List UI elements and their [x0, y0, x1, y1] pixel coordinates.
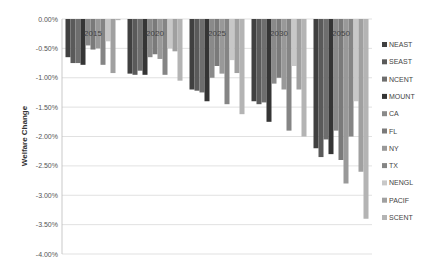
- bar-ncent-2020: [138, 19, 143, 71]
- category-label: 2030: [270, 29, 288, 38]
- bar-seast-2030: [257, 19, 262, 104]
- legend-swatch: [382, 198, 387, 203]
- bar-ny-2025: [220, 19, 225, 74]
- welfare-change-bar-chart: 0.00%-0.50%-1.00%-1.50%-2.00%-2.50%-3.00…: [0, 0, 443, 269]
- bar-series: [66, 19, 369, 219]
- bar-fl-2025: [215, 19, 220, 66]
- bar-seast-2020: [133, 19, 138, 75]
- legend-label-fl: FL: [389, 128, 397, 135]
- bar-neast-2025: [190, 19, 195, 90]
- legend-swatch: [382, 180, 387, 185]
- legend-label-neast: NEAST: [389, 41, 413, 48]
- bar-scent-2020: [178, 19, 183, 81]
- bar-pacif-2015: [111, 19, 116, 73]
- bar-tx-2015: [101, 19, 106, 65]
- legend-label-pacif: PACIF: [389, 197, 409, 204]
- bar-ca-2025: [210, 19, 215, 78]
- bar-ny-2050: [344, 19, 349, 184]
- bar-mount-2020: [143, 19, 148, 75]
- bar-nengl-2025: [230, 19, 235, 60]
- bar-ncent-2025: [200, 19, 205, 92]
- bar-neast-2030: [252, 19, 257, 101]
- bar-scent-2015: [116, 19, 121, 20]
- bar-tx-2020: [163, 19, 168, 75]
- legend-swatch: [382, 215, 387, 220]
- bar-seast-2025: [195, 19, 200, 91]
- category-label: 2025: [208, 29, 226, 38]
- y-tick-label: -1.00%: [36, 74, 58, 81]
- legend: NEASTSEASTNCENTMOUNTCAFLNYTXNENGLPACIFSC…: [382, 41, 415, 221]
- bar-ncent-2030: [262, 19, 267, 102]
- bar-nengl-2015: [106, 19, 111, 41]
- legend-swatch: [382, 146, 387, 151]
- bar-nengl-2030: [292, 19, 297, 66]
- bar-scent-2050: [364, 19, 369, 219]
- y-tick-label: -3.50%: [36, 221, 58, 228]
- bar-scent-2025: [240, 19, 245, 114]
- bar-neast-2050: [314, 19, 319, 148]
- bar-nengl-2020: [168, 19, 173, 48]
- legend-label-ca: CA: [389, 110, 399, 117]
- bar-seast-2050: [319, 19, 324, 157]
- y-axis-ticks: 0.00%-0.50%-1.00%-1.50%-2.00%-2.50%-3.00…: [36, 16, 58, 258]
- bar-nengl-2050: [354, 19, 359, 101]
- bar-fl-2050: [339, 19, 344, 160]
- legend-swatch: [382, 129, 387, 134]
- category-label: 2015: [84, 29, 102, 38]
- bar-seast-2015: [71, 19, 76, 63]
- legend-swatch: [382, 77, 387, 82]
- bar-neast-2015: [66, 19, 71, 57]
- category-labels: 20152020202520302050: [84, 29, 350, 38]
- y-tick-label: 0.00%: [38, 16, 58, 23]
- bar-pacif-2020: [173, 19, 178, 51]
- y-axis-title: Welfare Change: [20, 105, 29, 166]
- bar-fl-2030: [277, 19, 282, 78]
- legend-label-scent: SCENT: [389, 214, 413, 221]
- bar-mount-2015: [81, 19, 86, 65]
- legend-label-tx: TX: [389, 162, 398, 169]
- bar-pacif-2030: [297, 19, 302, 90]
- legend-label-ny: NY: [389, 145, 399, 152]
- y-tick-label: -3.00%: [36, 192, 58, 199]
- y-tick-label: -2.00%: [36, 133, 58, 140]
- legend-label-mount: MOUNT: [389, 93, 415, 100]
- category-label: 2050: [332, 29, 350, 38]
- bar-scent-2030: [302, 19, 307, 137]
- legend-label-nengl: NENGL: [389, 179, 413, 186]
- y-tick-label: -2.50%: [36, 162, 58, 169]
- bar-ca-2020: [148, 19, 153, 57]
- legend-swatch: [382, 42, 387, 47]
- bar-ncent-2015: [76, 19, 81, 63]
- legend-swatch: [382, 59, 387, 64]
- legend-label-ncent: NCENT: [389, 76, 414, 83]
- legend-swatch: [382, 94, 387, 99]
- bar-neast-2020: [128, 19, 133, 74]
- bar-ny-2020: [158, 19, 163, 59]
- bar-ncent-2050: [324, 19, 329, 139]
- legend-swatch: [382, 163, 387, 168]
- legend-label-seast: SEAST: [389, 58, 413, 65]
- legend-swatch: [382, 111, 387, 116]
- y-tick-label: -1.50%: [36, 104, 58, 111]
- bar-pacif-2025: [235, 19, 240, 73]
- y-tick-label: -4.00%: [36, 251, 58, 258]
- bar-pacif-2050: [359, 19, 364, 172]
- category-label: 2020: [146, 29, 164, 38]
- y-tick-label: -0.50%: [36, 45, 58, 52]
- bar-mount-2050: [329, 19, 334, 154]
